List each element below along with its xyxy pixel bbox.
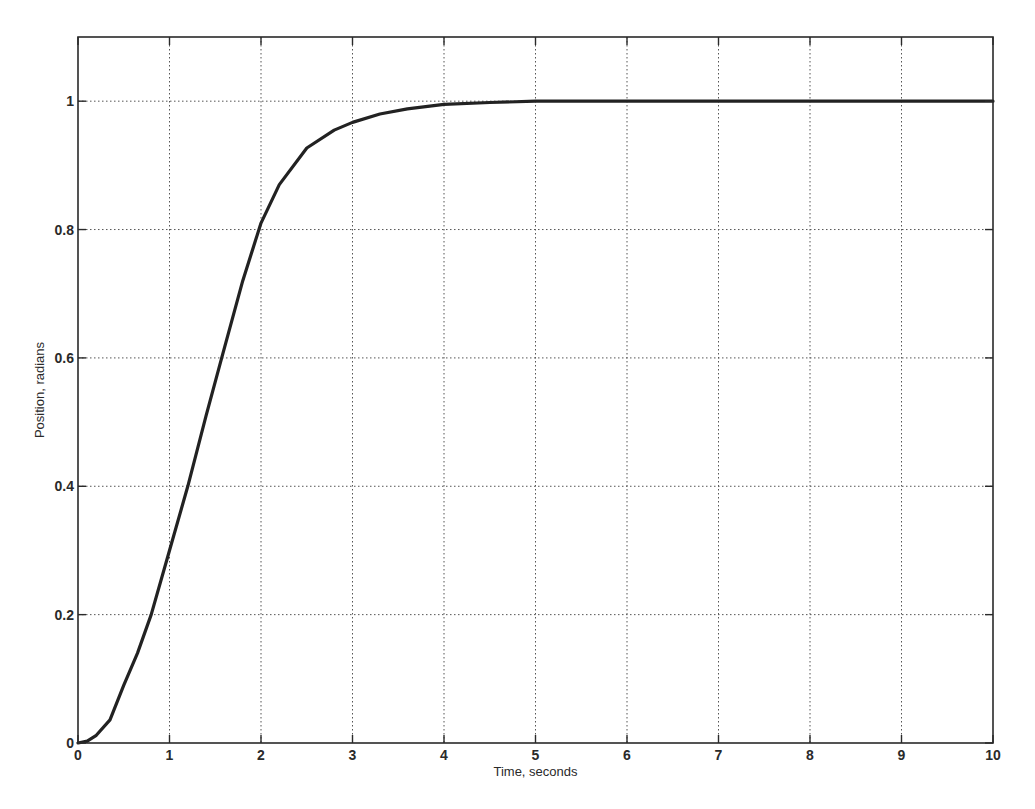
x-tick-label: 10 [985,747,1001,763]
grid-lines [78,37,993,743]
x-tick-label: 5 [532,747,540,763]
y-tick-label: 0.6 [55,350,75,366]
y-tick-label: 1 [66,93,74,109]
y-axis-label: Position, radians [32,341,47,438]
x-axis-label: Time, seconds [493,764,578,779]
y-tick-label: 0 [66,735,74,751]
y-tick-label: 0.2 [55,607,75,623]
y-axis-tick-labels: 00.20.40.60.81 [55,93,75,751]
x-tick-label: 1 [166,747,174,763]
y-tick-label: 0.4 [55,478,75,494]
x-tick-label: 4 [440,747,448,763]
x-tick-label: 3 [349,747,357,763]
x-tick-label: 9 [898,747,906,763]
x-axis-tick-labels: 012345678910 [74,747,1001,763]
x-tick-label: 6 [623,747,631,763]
line-chart: 012345678910 00.20.40.60.81 Time, second… [0,0,1035,809]
x-tick-label: 7 [715,747,723,763]
x-tick-label: 2 [257,747,265,763]
x-tick-label: 0 [74,747,82,763]
x-tick-label: 8 [806,747,814,763]
y-tick-label: 0.8 [55,222,75,238]
